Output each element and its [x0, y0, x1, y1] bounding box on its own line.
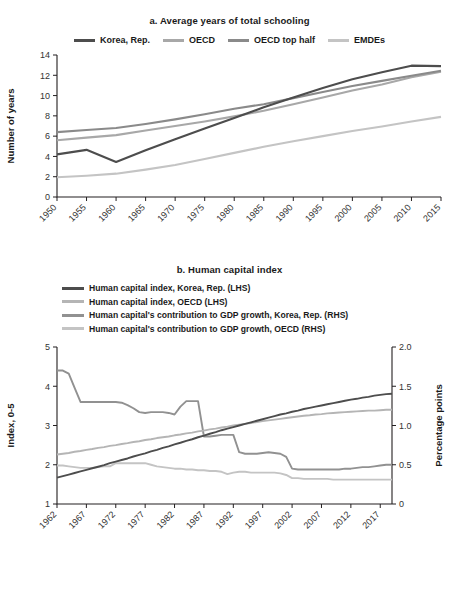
x-tick-label: 1975: [185, 202, 206, 223]
x-tick-label: 1960: [96, 202, 117, 223]
x-tick-label: 1967: [67, 509, 88, 530]
y-tick-label: 10: [40, 91, 50, 101]
x-tick-label: 1970: [155, 202, 176, 223]
x-tick-label: 1977: [125, 509, 146, 530]
series-line-human-capital-index-oecd-lhs: [57, 410, 392, 455]
x-tick-label: 2010: [392, 202, 413, 223]
x-tick-label: 2002: [272, 509, 293, 530]
legend-line-icon: [74, 39, 95, 42]
y-axis-title-right: Percentage points: [433, 384, 444, 466]
x-tick-label: 2017: [360, 509, 381, 530]
y-tick-label: 6: [45, 131, 50, 141]
series-line-oecd-top-half: [57, 71, 441, 132]
y-tick-label-left: 3: [45, 421, 50, 431]
legend-item-label: EMDEs: [354, 35, 385, 45]
legend-item: OECD top half: [228, 35, 315, 45]
y-tick-label-right: 2.0: [399, 342, 412, 352]
y-axis-title: Number of years: [5, 89, 16, 164]
legend-item: Human capital's contribution to GDP grow…: [62, 324, 459, 334]
x-tick-label: 1980: [214, 202, 235, 223]
legend-item: Human capital's contribution to GDP grow…: [62, 310, 459, 320]
legend-item-label: Human capital's contribution to GDP grow…: [89, 324, 325, 334]
panel-a-title: a. Average years of total schooling: [0, 15, 459, 26]
legend-line-icon: [62, 314, 84, 317]
y-tick-label: 0: [45, 192, 50, 202]
y-tick-label: 8: [45, 111, 50, 121]
legend-line-icon: [62, 327, 84, 330]
legend-item-label: OECD top half: [254, 35, 315, 45]
panel-b-chart: 1234500.51.01.52.0Index, 0-5Percentage p…: [0, 337, 459, 567]
x-tick-label: 1965: [126, 202, 147, 223]
legend-item: Human capital index, Korea, Rep. (LHS): [62, 283, 459, 293]
x-tick-label: 2000: [333, 202, 354, 223]
legend-item: OECD: [163, 35, 215, 45]
legend-line-icon: [163, 39, 184, 42]
legend-item-label: Human capital's contribution to GDP grow…: [89, 310, 348, 320]
y-tick-label: 14: [40, 50, 50, 60]
x-tick-label: 2012: [331, 509, 352, 530]
x-tick-label: 1972: [96, 509, 117, 530]
x-tick-label: 1992: [213, 509, 234, 530]
panel-a-legend: Korea, Rep.OECDOECD top halfEMDEs: [0, 35, 459, 45]
legend-item: Human capital index, OECD (LHS): [62, 297, 459, 307]
legend-item: Korea, Rep.: [74, 35, 150, 45]
legend-item-label: Korea, Rep.: [100, 35, 150, 45]
x-tick-label: 1995: [303, 202, 324, 223]
legend-line-icon: [62, 287, 84, 290]
panel-b-plot: 1234500.51.01.52.0Index, 0-5Percentage p…: [0, 337, 459, 567]
x-tick-label: 1982: [155, 509, 176, 530]
legend-line-icon: [62, 300, 84, 303]
x-tick-label: 2005: [362, 202, 383, 223]
legend-item-label: OECD: [189, 35, 215, 45]
y-tick-label: 12: [40, 71, 50, 81]
y-tick-label: 4: [45, 152, 50, 162]
y-tick-label-left: 5: [45, 342, 50, 352]
y-tick-label: 2: [45, 172, 50, 182]
panel-a-chart: 02468101214Number of years19501955196019…: [0, 45, 459, 260]
y-tick-label-left: 4: [45, 382, 50, 392]
series-line-human-capital-s-contribution-to-gdp-growth-oecd-rhs: [57, 463, 392, 479]
legend-item-label: Human capital index, Korea, Rep. (LHS): [89, 283, 250, 293]
panel-b-legend: Human capital index, Korea, Rep. (LHS)Hu…: [62, 283, 459, 334]
y-tick-label-right: 1.0: [399, 421, 412, 431]
y-tick-label-right: 0.5: [399, 460, 412, 470]
x-tick-label: 1997: [243, 509, 264, 530]
y-tick-label-right: 1.5: [399, 382, 412, 392]
figure-page: a. Average years of total schooling Kore…: [0, 15, 459, 606]
legend-item: EMDEs: [328, 35, 385, 45]
x-tick-label: 1985: [244, 202, 265, 223]
panel-a-plot: 02468101214Number of years19501955196019…: [0, 45, 459, 260]
x-tick-label: 1987: [184, 509, 205, 530]
x-tick-label: 2015: [421, 202, 442, 223]
x-tick-label: 2007: [302, 509, 323, 530]
series-line-human-capital-s-contribution-to-gdp-growth-korea-rep-rhs: [57, 371, 392, 470]
y-tick-label-right: 0: [399, 499, 404, 509]
legend-item-label: Human capital index, OECD (LHS): [89, 297, 227, 307]
y-tick-label-left: 2: [45, 460, 50, 470]
y-tick-label-left: 1: [45, 499, 50, 509]
x-tick-label: 1962: [37, 509, 58, 530]
legend-line-icon: [228, 39, 249, 42]
y-axis-title-left: Index, 0-5: [5, 403, 16, 448]
x-tick-label: 1955: [67, 202, 88, 223]
x-tick-label: 1990: [273, 202, 294, 223]
legend-line-icon: [328, 39, 349, 42]
x-tick-label: 1950: [37, 202, 58, 223]
series-line-emdes: [57, 117, 441, 177]
panel-b-title: b. Human capital index: [0, 264, 459, 275]
